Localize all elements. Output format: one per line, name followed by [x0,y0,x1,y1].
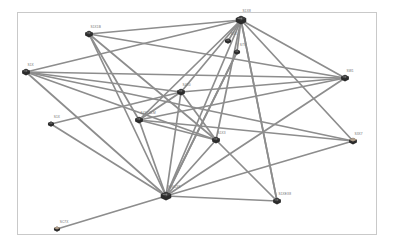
node-label: S4XC0LM [141,111,156,115]
router-icon [47,120,56,127]
router-icon [348,137,359,146]
node-label: S7X [240,43,246,47]
node-label: S1X8 [243,9,251,13]
router-icon [234,14,249,26]
router-icon [340,74,351,83]
router-icon [53,225,62,232]
node-label: S1X [28,63,34,67]
node-label: S3X7 [355,132,363,136]
router-icon [84,30,95,39]
router-icon [233,48,242,55]
network-node[interactable]: SC7X [53,225,62,232]
network-node[interactable]: S4X0 [176,88,187,97]
topology-node-layer: S1X8S1X1BS7XS1XSW1S4X0S4XC0LMS1XS1X3S3X7… [0,0,394,249]
node-label: S1X [54,115,60,119]
network-node[interactable]: S4XC0LM [134,116,145,125]
router-icon [224,37,233,44]
node-label: S4X0 [183,83,191,87]
router-icon [211,136,222,145]
node-label: S1X [231,32,237,36]
network-node[interactable]: S1X [47,120,56,127]
node-label: S1X1B [91,25,101,29]
router-icon [272,197,283,206]
network-node[interactable]: S1X1B [84,30,95,39]
router-icon [176,88,187,97]
network-node[interactable]: SW1 [340,74,351,83]
node-label: S1XEX8 [279,192,292,196]
node-label: SC7X [60,220,69,224]
network-node[interactable]: S3X7 [348,137,359,146]
network-node[interactable]: S1XEX8 [272,197,283,206]
node-label: S1X3 [218,131,226,135]
router-icon [134,116,145,125]
network-node[interactable]: S7X [233,48,242,55]
node-label: S1XCX8 [168,185,181,189]
network-topology-app: S1X8S1X1BS7XS1XSW1S4X0S4XC0LMS1XS1X3S3X7… [0,0,394,249]
network-node[interactable]: S1X8 [234,14,249,26]
network-node[interactable]: S1X3 [211,136,222,145]
network-node[interactable]: S1X [21,68,32,77]
router-icon [159,190,174,202]
node-label: SW1 [347,69,354,73]
network-node[interactable]: S1XCX8 [159,190,174,202]
network-node[interactable]: S1X [224,37,233,44]
router-icon [21,68,32,77]
